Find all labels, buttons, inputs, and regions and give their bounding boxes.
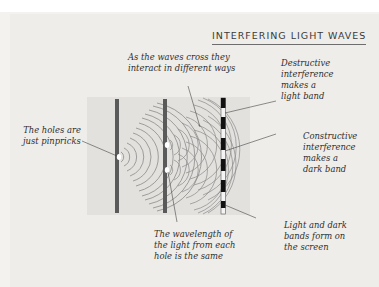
label-destructive: Destructive interference makes a light b… [281,58,333,102]
pinhole-2a [165,142,169,148]
barrier-double-slit [163,99,167,213]
label-wavelength: The wavelength of the light from each ho… [154,229,235,262]
diagram-title: INTERFERING LIGHT WAVES [212,30,366,45]
label-holes: The holes are just pinpricks [23,125,81,147]
screen [221,98,226,214]
pinhole-2b [165,167,169,173]
label-waves-cross: As the waves cross they interact in diff… [128,52,235,74]
pinhole-1 [117,154,121,160]
label-bands: Light and dark bands form on the screen [284,220,347,253]
label-constructive: Constructive interference makes a dark b… [303,131,357,175]
